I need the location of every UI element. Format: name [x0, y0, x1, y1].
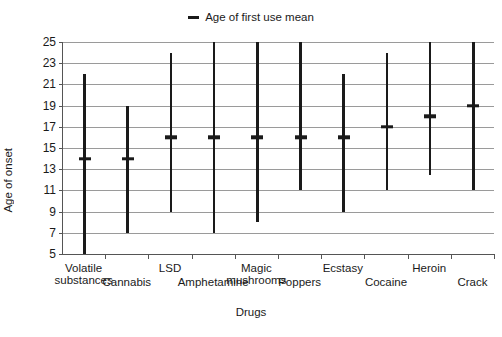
mean-marker	[467, 104, 479, 107]
range-bar	[256, 42, 259, 222]
mean-marker	[122, 157, 134, 160]
data-series-group	[236, 42, 279, 254]
range-bar	[299, 42, 302, 190]
x-axis-tick-mark	[148, 254, 149, 259]
data-series-group	[63, 42, 106, 254]
legend-entry-label: Age of first use mean	[205, 11, 314, 23]
x-axis-tick-mark	[451, 254, 452, 259]
data-series-group	[322, 42, 365, 254]
data-series-group	[193, 42, 236, 254]
chart-container: Age of first use mean Age of onset 25232…	[0, 0, 502, 337]
x-axis-title: Drugs	[0, 306, 502, 318]
data-series-group	[106, 42, 149, 254]
x-axis-tick-mark	[105, 254, 106, 259]
x-axis-tick-label: Ecstasy	[323, 262, 363, 274]
mean-marker	[424, 114, 436, 117]
x-axis-tick-label: Heroin	[412, 262, 446, 274]
plot-area: 2523211917151311975	[62, 42, 494, 254]
x-axis-tick-mark	[494, 254, 495, 259]
x-axis-tick-label: LSD	[159, 262, 181, 274]
x-axis-tick-mark	[278, 254, 279, 259]
mean-marker	[251, 136, 263, 139]
x-axis-tick-label: Crack	[457, 276, 487, 288]
mean-marker	[338, 136, 350, 139]
range-bar	[83, 74, 86, 254]
y-axis-tick-label: 13	[43, 162, 63, 176]
data-series-group	[279, 42, 322, 254]
y-axis-tick-label: 17	[43, 120, 63, 134]
mean-marker	[79, 157, 91, 160]
x-axis-tick-label: Cannabis	[103, 276, 152, 288]
x-axis-tick-mark	[321, 254, 322, 259]
range-bar	[342, 74, 345, 212]
data-series-group	[409, 42, 452, 254]
chart-legend: Age of first use mean	[0, 6, 502, 28]
mean-marker	[208, 136, 220, 139]
data-series-group	[149, 42, 192, 254]
x-axis-tick-mark	[364, 254, 365, 259]
range-bar	[126, 106, 129, 233]
range-bar	[472, 42, 475, 190]
x-axis-tick-label: Poppers	[278, 276, 321, 288]
x-axis-tick-mark	[408, 254, 409, 259]
y-axis-tick-label: 5	[49, 247, 63, 261]
y-axis-tick-label: 9	[49, 205, 63, 219]
y-axis-tick-label: 19	[43, 99, 63, 113]
legend-dash-icon	[188, 16, 199, 19]
range-bar	[386, 53, 389, 191]
y-axis-tick-label: 15	[43, 141, 63, 155]
data-series-group	[452, 42, 495, 254]
y-axis-tick-label: 23	[43, 56, 63, 70]
range-bar	[170, 53, 173, 212]
y-axis-tick-label: 21	[43, 77, 63, 91]
x-axis-tick-label: Cocaine	[365, 276, 407, 288]
y-axis-tick-label: 11	[44, 183, 63, 197]
y-axis-tick-label: 7	[49, 226, 63, 240]
x-axis-tick-mark	[192, 254, 193, 259]
mean-marker	[295, 136, 307, 139]
mean-marker	[165, 136, 177, 139]
range-bar	[429, 42, 432, 175]
x-axis-tick-mark	[235, 254, 236, 259]
mean-marker	[381, 125, 393, 128]
y-axis-title: Age of onset	[2, 148, 16, 213]
legend-entry-age-of-first-use-mean: Age of first use mean	[188, 11, 314, 23]
y-axis-tick-label: 25	[43, 35, 63, 49]
data-series-group	[365, 42, 408, 254]
